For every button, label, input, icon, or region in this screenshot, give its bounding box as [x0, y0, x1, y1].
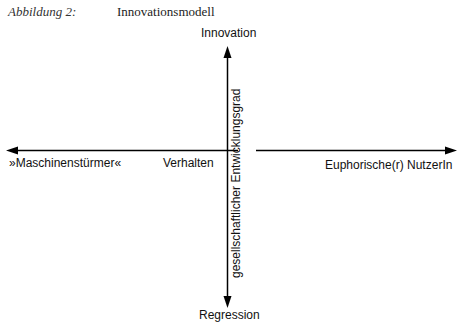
top-label: Innovation — [201, 26, 256, 40]
arrow-down-icon — [224, 296, 232, 308]
left-label: »Maschinenstürmer« — [9, 156, 121, 170]
vertical-axis-label: gesellschaftlicher Entwicklungsgrad — [229, 89, 243, 278]
arrow-left-icon — [6, 147, 18, 155]
bottom-label: Regression — [199, 308, 260, 322]
arrow-up-icon — [224, 46, 232, 58]
right-label: Euphorische(r) NutzerIn — [325, 158, 452, 172]
arrow-right-icon — [445, 147, 457, 155]
center-left-label: Verhalten — [163, 156, 214, 170]
